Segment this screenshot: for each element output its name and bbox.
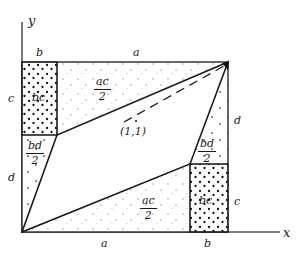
edge-label-right-lower-c: c [234, 196, 240, 207]
fraction-denominator: 2 [26, 155, 44, 167]
fraction-denominator: 2 [94, 91, 111, 103]
region-label-ac-over-2-bottom: ac 2 [140, 195, 157, 221]
edge-label-right-upper-d: d [234, 115, 241, 126]
y-axis-label: y [28, 14, 35, 27]
edge-label-left-upper-c: c [8, 93, 14, 104]
region-label-bc-top-left: bc [32, 92, 45, 103]
fraction-numerator: bd [198, 138, 216, 150]
region-label-ac-over-2-top: ac 2 [94, 76, 111, 102]
edge-label-top-right-a: a [133, 47, 140, 58]
edge-label-left-lower-d: d [8, 172, 15, 183]
region-label-bc-bottom-right: bc [199, 195, 212, 206]
fraction-denominator: 2 [140, 210, 157, 222]
edge-label-bottom-left-a: a [101, 238, 108, 249]
fraction-numerator: bd [26, 140, 44, 152]
edge-label-bottom-right-b: b [204, 238, 211, 249]
fraction-denominator: 2 [198, 153, 216, 165]
edge-label-top-left-b: b [36, 47, 43, 58]
fraction-numerator: ac [140, 195, 157, 207]
point-label-1-1: (1,1) [120, 126, 146, 137]
region-label-bd-over-2-right: bd 2 [198, 138, 216, 164]
region-label-bd-over-2-left: bd 2 [26, 140, 44, 166]
point-marker-1-1 [135, 120, 137, 122]
fraction-numerator: ac [94, 76, 111, 88]
x-axis-label: x [283, 226, 290, 239]
figure-canvas: y x b a a b c d d c bc bc ac 2 ac 2 bd 2… [0, 0, 298, 254]
